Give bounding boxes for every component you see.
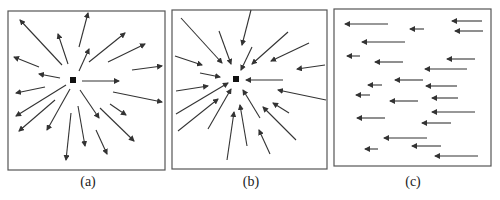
vector-arrow-icon (79, 49, 89, 71)
caption-c: (c) (383, 174, 443, 190)
vector-arrow-icon (243, 90, 260, 118)
caption-b: (b) (221, 174, 281, 190)
vector-arrow-icon (273, 103, 289, 113)
panel-frame (8, 11, 165, 170)
vector-arrow-icon (66, 113, 71, 160)
vector-arrow-icon (89, 33, 125, 62)
vector-arrow-icon (78, 106, 85, 146)
vector-arrow-icon (14, 57, 39, 67)
vector-arrow-icon (227, 112, 234, 160)
vector-arrow-icon (79, 13, 88, 47)
vector-arrow-icon (208, 89, 231, 129)
vector-arrow-icon (297, 65, 325, 69)
vector-arrow-icon (20, 20, 62, 65)
vector-arrow-icon (110, 104, 126, 115)
vector-arrow-icon (58, 34, 68, 64)
vector-arrow-icon (278, 90, 326, 100)
vector-arrow-icon (16, 87, 45, 93)
vector-arrow-icon (241, 47, 252, 70)
vector-arrow-icon (242, 10, 251, 45)
vector-arrow-icon (176, 83, 228, 114)
vector-arrow-icon (176, 86, 208, 91)
panel-b-sink-field (172, 10, 327, 169)
panel-c-uniform-field (334, 9, 491, 166)
vector-arrow-icon (240, 105, 247, 146)
vector-arrow-icon (39, 74, 60, 78)
panel-frame (334, 9, 491, 166)
vector-arrow-icon (108, 44, 145, 62)
center-point-marker (70, 77, 76, 83)
vector-arrow-icon (271, 43, 309, 61)
caption-a: (a) (58, 174, 118, 190)
panel-a-source-field (8, 11, 165, 170)
vector-arrow-icon (259, 130, 270, 154)
vector-arrow-icon (200, 73, 220, 77)
vector-arrow-icon (100, 108, 134, 141)
vector-arrow-icon (132, 66, 162, 70)
vector-field-figure (0, 0, 500, 200)
vector-arrow-icon (252, 32, 288, 64)
vector-arrow-icon (219, 31, 231, 64)
vector-arrow-icon (96, 130, 107, 154)
vector-arrow-icon (178, 99, 218, 131)
vector-arrow-icon (113, 92, 162, 102)
vector-arrow-icon (181, 18, 222, 63)
center-point-marker (233, 76, 239, 82)
vector-arrow-icon (80, 90, 99, 118)
vector-arrow-icon (263, 107, 296, 140)
vector-arrow-icon (175, 56, 202, 65)
